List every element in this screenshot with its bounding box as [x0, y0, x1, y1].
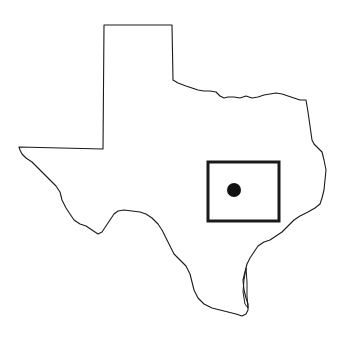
location-marker — [227, 183, 241, 197]
texas-map — [0, 0, 345, 344]
